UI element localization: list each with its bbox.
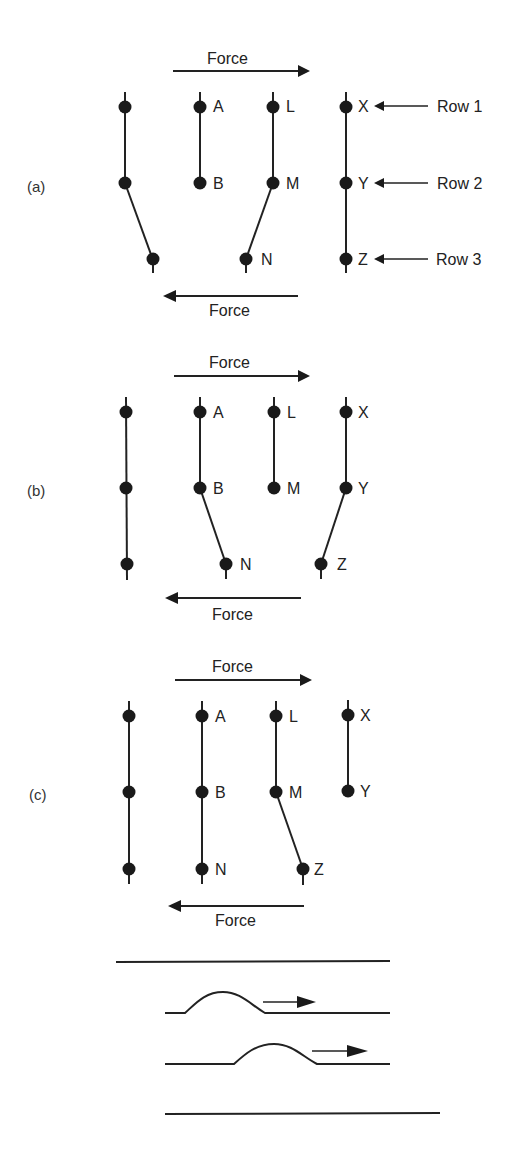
row-label-3: Row 3 — [436, 251, 481, 268]
atom-dot — [147, 253, 160, 266]
panel-c: Force A B N L M — [29, 658, 371, 929]
atom-label-Z: Z — [337, 556, 347, 573]
atom-column-AB: A B — [194, 92, 225, 192]
atom-column-LM: L M — [268, 397, 301, 497]
atom-label-N: N — [261, 251, 273, 268]
atom-label-M: M — [286, 175, 299, 192]
rug-hump-analogy — [116, 961, 440, 1114]
atom-label-Z: Z — [314, 861, 324, 878]
atom-dot — [119, 101, 132, 114]
panel-label-a: (a) — [27, 178, 45, 195]
row-label-1: Row 1 — [437, 98, 482, 115]
row-label-2: Row 2 — [437, 175, 482, 192]
row-pointers: Row 1 Row 2 Row 3 — [374, 98, 482, 268]
dislocation-diagram: Force A B L M — [0, 0, 516, 1157]
atom-column-1 — [123, 701, 136, 884]
arrowhead-icon — [163, 290, 176, 302]
atom-label-Y: Y — [360, 783, 371, 800]
atom-label-X: X — [360, 707, 371, 724]
arrowhead-icon — [298, 370, 310, 382]
arrowhead-icon — [347, 1045, 368, 1057]
atom-label-Y: Y — [358, 480, 369, 497]
force-label-top: Force — [212, 658, 253, 675]
arrowhead-icon — [300, 674, 312, 686]
atom-label-A: A — [213, 404, 224, 421]
atom-label-L: L — [287, 404, 296, 421]
atom-column-LMZ: L M Z — [270, 701, 325, 885]
force-label-bottom: Force — [215, 912, 256, 929]
arrowhead-icon — [374, 254, 384, 264]
atom-label-A: A — [213, 98, 224, 115]
panel-a: Force A B L M — [27, 50, 482, 319]
atom-column-XY: X Y — [342, 700, 372, 800]
atom-label-X: X — [358, 404, 369, 421]
arrowhead-icon — [168, 900, 181, 912]
atom-label-L: L — [289, 708, 298, 725]
atom-label-Y: Y — [358, 175, 369, 192]
panel-label-b: (b) — [27, 482, 45, 499]
panel-b: Force A B N L M — [27, 354, 369, 623]
atom-label-L: L — [286, 98, 295, 115]
atom-label-M: M — [289, 784, 302, 801]
atom-column-XYZ: X Y Z — [315, 397, 370, 579]
atom-label-Z: Z — [358, 251, 368, 268]
panel-label-c: (c) — [29, 786, 47, 803]
atom-dot — [119, 177, 132, 190]
arrowhead-icon — [165, 592, 178, 604]
atom-label-N: N — [240, 556, 252, 573]
arrowhead-icon — [374, 178, 384, 188]
arrowhead-icon — [374, 101, 384, 111]
atom-label-M: M — [287, 480, 300, 497]
atom-label-B: B — [215, 784, 226, 801]
atom-column-1 — [120, 397, 134, 580]
atom-label-B: B — [213, 480, 224, 497]
atom-column-ABN: A B N — [196, 701, 227, 884]
atom-column-XYZ: X Y Z — [340, 92, 370, 273]
atom-label-N: N — [215, 861, 227, 878]
force-label-bottom: Force — [212, 606, 253, 623]
atom-column-LMN: L M N — [240, 92, 300, 273]
force-label-top: Force — [209, 354, 250, 371]
atom-label-B: B — [213, 175, 224, 192]
arrowhead-icon — [297, 996, 316, 1008]
atom-column-1 — [119, 92, 160, 273]
layer-line-top — [116, 961, 390, 962]
arrowhead-icon — [298, 65, 310, 77]
atom-label-A: A — [215, 708, 226, 725]
force-label-bottom: Force — [209, 302, 250, 319]
atom-label-X: X — [358, 98, 369, 115]
force-label-top: Force — [207, 50, 248, 67]
atom-column-ABN: A B N — [194, 397, 252, 579]
layer-line-bottom — [165, 1113, 440, 1114]
